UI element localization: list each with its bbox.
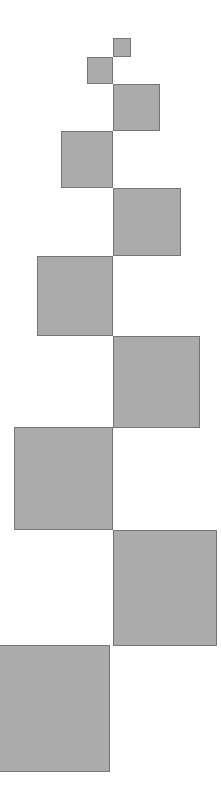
square-10 <box>0 645 110 772</box>
square-2 <box>87 57 113 84</box>
square-1 <box>113 38 131 57</box>
square-7 <box>113 336 200 428</box>
square-3 <box>113 84 160 131</box>
fibonacci-square-tiling-figure <box>0 0 221 806</box>
square-6 <box>37 256 113 336</box>
square-8 <box>14 427 113 530</box>
square-9 <box>113 530 217 646</box>
square-4 <box>61 131 113 188</box>
square-5 <box>113 188 181 256</box>
